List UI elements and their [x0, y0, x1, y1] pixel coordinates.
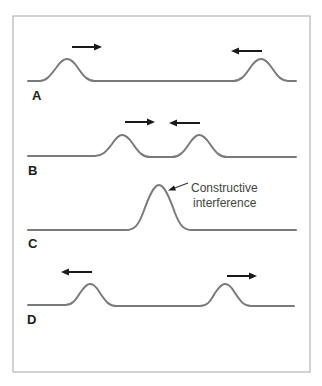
panel-a: A	[28, 44, 296, 104]
panel-c: Constructive interference C	[28, 181, 296, 251]
annotation-constructive: Constructive	[191, 181, 258, 195]
wave-b	[28, 135, 296, 157]
panel-label-c: C	[28, 236, 38, 251]
arrow-right-icon	[227, 273, 257, 280]
figure-frame	[13, 16, 310, 372]
panel-b: B	[28, 119, 296, 179]
arrow-left-icon	[61, 269, 92, 276]
arrow-right-icon	[72, 44, 102, 51]
arrow-left-icon	[231, 48, 262, 55]
wave-interference-diagram: A B Constructive interference C	[0, 0, 322, 386]
wave-d	[28, 284, 294, 306]
wave-a	[28, 59, 296, 81]
panel-label-b: B	[28, 163, 37, 178]
panel-d: D	[27, 269, 294, 328]
arrow-right-icon	[125, 119, 155, 126]
panel-label-a: A	[32, 88, 42, 103]
annotation-interference: interference	[193, 196, 257, 210]
panel-label-d: D	[27, 312, 36, 327]
annotation-pointer	[168, 183, 188, 191]
arrow-left-icon	[169, 120, 200, 127]
